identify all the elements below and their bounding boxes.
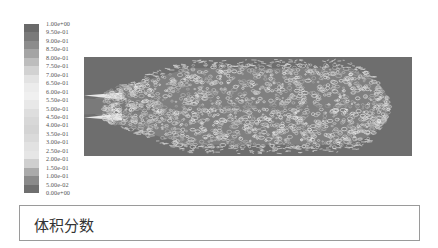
colorbar-tick-label: 6.50e-01 (46, 79, 69, 86)
colorbar-swatch (24, 75, 39, 84)
colorbar-tick-label: 0.00e+00 (46, 189, 70, 196)
colorbar-swatch (24, 168, 39, 177)
colorbar-tick-label: 1.50e-01 (46, 164, 69, 171)
colorbar-tick-label: 3.50e-01 (46, 130, 69, 137)
colorbar-tick-label: 4.00e-01 (46, 121, 69, 128)
colorbar-swatch (24, 92, 39, 101)
colorbar-swatch (24, 142, 39, 151)
colorbar-swatch (24, 58, 39, 67)
contour-plot (84, 57, 412, 156)
colorbar-tick-label: 2.50e-01 (46, 147, 69, 154)
colorbar-swatch (24, 32, 39, 41)
colorbar-tick-label: 8.50e-01 (46, 45, 69, 52)
colorbar-swatch (24, 41, 39, 50)
colorbar-tick-label: 5.00e-01 (46, 105, 69, 112)
colorbar-swatch (24, 109, 39, 118)
colorbar-tick-label: 8.00e-01 (46, 54, 69, 61)
colorbar-tick-label: 6.00e-01 (46, 88, 69, 95)
colorbar-legend (24, 22, 39, 202)
colorbar-tick-label: 9.00e-01 (46, 37, 69, 44)
caption-text: 体积分数 (34, 214, 94, 235)
colorbar-swatch (24, 100, 39, 109)
colorbar-swatch (24, 134, 39, 143)
colorbar-tick-label: 1.00e-01 (46, 172, 69, 179)
colorbar-swatch (24, 24, 39, 33)
colorbar-tick-label: 1.00e+00 (46, 20, 70, 27)
plume-contour (84, 57, 412, 156)
colorbar-tick-label: 5.00e-02 (46, 181, 69, 188)
caption-box: 体积分数 (19, 205, 420, 241)
colorbar-swatch (24, 66, 39, 75)
colorbar-tick-label: 3.00e-01 (46, 138, 69, 145)
colorbar-tick-label: 9.50e-01 (46, 28, 69, 35)
colorbar-tick-label: 7.00e-01 (46, 71, 69, 78)
colorbar-swatch (24, 176, 39, 185)
colorbar-tick-label: 5.50e-01 (46, 96, 69, 103)
colorbar-tick-label: 4.50e-01 (46, 113, 69, 120)
colorbar-tick-label: 7.50e-01 (46, 62, 69, 69)
colorbar-swatch (24, 185, 39, 194)
colorbar-swatch (24, 159, 39, 168)
colorbar-swatch (24, 49, 39, 58)
colorbar-swatch (24, 117, 39, 126)
colorbar-tick-label: 2.00e-01 (46, 155, 69, 162)
colorbar-swatch (24, 83, 39, 92)
colorbar-swatch (24, 125, 39, 134)
colorbar-swatch (24, 151, 39, 160)
